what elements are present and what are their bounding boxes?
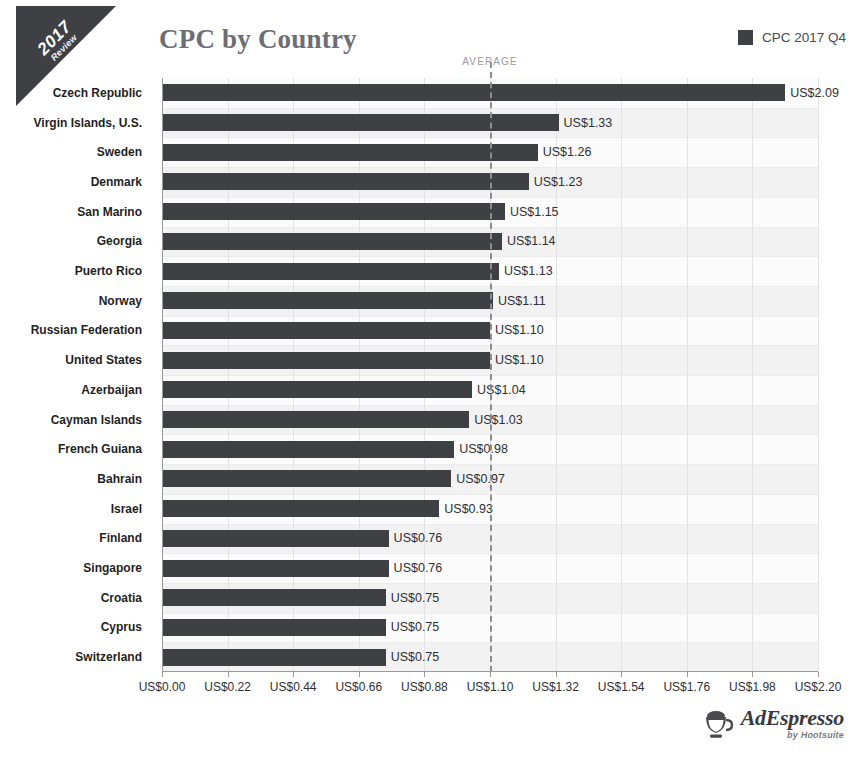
y-axis-label: Bahrain [0,473,152,485]
bar[interactable] [162,292,493,309]
legend-swatch-cpc [738,30,753,45]
chart-legend: CPC 2017 Q4 [738,30,846,45]
tickmark [490,672,491,677]
y-axis-label: Azerbaijan [0,384,152,396]
y-axis-label: Denmark [0,176,152,188]
y-axis-label: Israel [0,503,152,515]
x-tick-label: US$0.22 [204,680,251,694]
plot-area: US$2.09US$1.33US$1.26US$1.23US$1.15US$1.… [162,78,818,672]
bar[interactable] [162,233,502,250]
bar-value-label: US$1.23 [534,175,583,189]
bar[interactable] [162,500,439,517]
tickmark [228,672,229,677]
bar-value-label: US$1.14 [507,234,556,248]
bar-value-label: US$1.10 [495,353,544,367]
gridline-vertical [621,78,622,672]
bar-value-label: US$1.15 [510,205,559,219]
bar[interactable] [162,322,490,339]
bar[interactable] [162,263,499,280]
logo-wordmark: AdEspresso by Hootsuite [741,707,844,740]
x-tick-label: US$0.44 [270,680,317,694]
gridline-vertical [293,78,294,672]
y-axis-label: Georgia [0,235,152,247]
gridline-vertical [556,78,557,672]
chart-title: CPC by Country [159,24,357,55]
bar[interactable] [162,649,386,666]
bar-value-label: US$1.03 [474,413,523,427]
bar-value-label: US$0.75 [391,620,440,634]
y-axis-label: Russian Federation [0,324,152,336]
bar-value-label: US$0.76 [394,531,443,545]
tickmark [687,672,688,677]
y-axis-label: Virgin Islands, U.S. [0,117,152,129]
bar[interactable] [162,560,389,577]
bar[interactable] [162,381,472,398]
bar-value-label: US$1.10 [495,323,544,337]
bar-value-label: US$0.75 [391,650,440,664]
bar[interactable] [162,619,386,636]
gridline-vertical [752,78,753,672]
gridline-vertical [818,78,819,672]
y-axis-label: Cayman Islands [0,414,152,426]
espresso-cup-icon [700,709,734,739]
y-axis-label: French Guiana [0,443,152,455]
y-axis-label: Croatia [0,592,152,604]
bar-value-label: US$1.11 [498,294,546,308]
x-tick-label: US$1.76 [663,680,710,694]
y-axis-label: San Marino [0,206,152,218]
y-axis-label: Cyprus [0,621,152,633]
x-tick-label: US$2.20 [795,680,842,694]
bar-value-label: US$0.98 [459,442,508,456]
y-axis-label: Czech Republic [0,87,152,99]
bar-value-label: US$0.75 [391,591,440,605]
bar-value-label: US$0.76 [394,561,443,575]
y-axis-label: Sweden [0,146,152,158]
x-tick-label: US$1.32 [532,680,579,694]
legend-label-cpc: CPC 2017 Q4 [762,30,846,45]
logo-name: AdEspresso [741,707,844,729]
y-axis-label: United States [0,354,152,366]
x-tick-label: US$1.98 [729,680,776,694]
tickmark [752,672,753,677]
x-tick-label: US$1.10 [467,680,514,694]
bar-value-label: US$1.13 [504,264,553,278]
y-axis-label: Finland [0,532,152,544]
x-axis-tick-labels: US$0.00US$0.22US$0.44US$0.66US$0.88US$1.… [162,680,818,702]
bar[interactable] [162,114,559,131]
bar[interactable] [162,470,451,487]
bar[interactable] [162,530,389,547]
bar[interactable] [162,589,386,606]
tickmark [293,672,294,677]
x-tick-label: US$0.00 [139,680,186,694]
bar-value-label: US$0.93 [444,502,493,516]
tickmark [424,672,425,677]
average-annotation-label: AVERAGE [462,56,517,67]
y-axis-line [162,78,163,672]
y-axis-label: Singapore [0,562,152,574]
gridline-vertical [359,78,360,672]
bar-value-label: US$1.26 [543,145,592,159]
y-axis-label: Switzerland [0,651,152,663]
bar-value-label: US$0.97 [456,472,505,486]
bar-value-label: US$1.04 [477,383,526,397]
tickmark [359,672,360,677]
x-tick-label: US$0.88 [401,680,448,694]
bar[interactable] [162,84,785,101]
y-axis-label: Norway [0,295,152,307]
x-tick-label: US$0.66 [335,680,382,694]
gridline-vertical [228,78,229,672]
bar[interactable] [162,441,454,458]
bar[interactable] [162,352,490,369]
bar[interactable] [162,411,469,428]
tickmark [818,672,819,677]
bar[interactable] [162,173,529,190]
gridline-vertical [424,78,425,672]
tickmark [621,672,622,677]
bar[interactable] [162,203,505,220]
logo-byline: by Hootsuite [787,731,844,740]
bar[interactable] [162,144,538,161]
bar-value-label: US$1.33 [564,116,613,130]
x-tick-label: US$1.54 [598,680,645,694]
y-axis-category-labels: Czech RepublicVirgin Islands, U.S.Sweden… [0,78,152,672]
adespresso-logo: AdEspresso by Hootsuite [700,707,844,740]
